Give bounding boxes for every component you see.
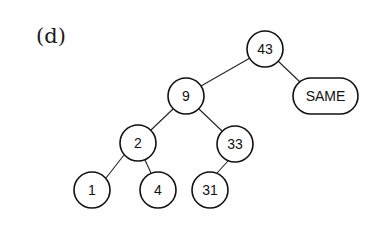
edge-9-2	[151, 109, 173, 130]
edge-9-33	[199, 109, 222, 131]
tree-node-9: 9	[168, 78, 204, 114]
tree-node-4: 4	[140, 172, 176, 208]
tree-node-same: SAME	[293, 78, 358, 114]
edge-43-9	[201, 58, 250, 86]
tree-node-2: 2	[120, 125, 156, 161]
node-label: 31	[202, 182, 218, 198]
tree-node-33: 33	[217, 126, 253, 162]
edge-33-31	[217, 161, 228, 173]
binary-tree-diagram: 43 9 SAME 2 33 1 4 31	[0, 0, 375, 244]
node-label: 9	[182, 88, 190, 104]
tree-node-31: 31	[192, 172, 228, 208]
node-label: SAME	[306, 88, 346, 104]
tree-node-1: 1	[74, 172, 110, 208]
edge-2-4	[145, 160, 151, 173]
node-label: 4	[154, 182, 162, 198]
node-label: 1	[88, 182, 96, 198]
node-label: 43	[257, 41, 273, 57]
tree-node-43: 43	[247, 31, 283, 67]
edge-43-same	[278, 61, 300, 82]
node-label: 33	[227, 136, 243, 152]
node-label: 2	[134, 135, 142, 151]
edge-2-1	[106, 155, 124, 178]
